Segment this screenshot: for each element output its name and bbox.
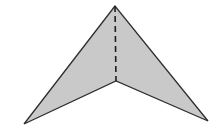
dart-diagram [0, 0, 222, 139]
dart-shape [24, 6, 208, 124]
